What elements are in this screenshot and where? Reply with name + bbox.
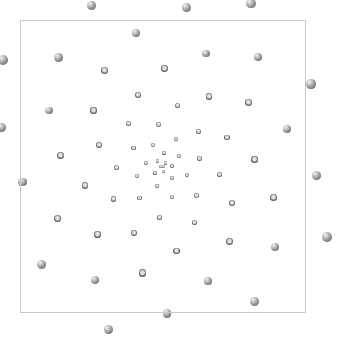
- spiral-sphere: [245, 99, 252, 106]
- spiral-sphere: [182, 3, 191, 12]
- spiral-sphere: [174, 137, 178, 141]
- spiral-sphere: [196, 129, 201, 134]
- spiral-sphere: [251, 156, 258, 163]
- spiral-sphere: [270, 194, 277, 201]
- spiral-sphere: [157, 215, 162, 220]
- spiral-sphere: [104, 325, 113, 334]
- spiral-sphere: [111, 196, 116, 201]
- spiral-sphere: [54, 53, 63, 62]
- spiral-sphere: [91, 276, 99, 284]
- spiral-sphere: [226, 238, 233, 245]
- spiral-sphere: [250, 297, 259, 306]
- spiral-sphere: [114, 165, 119, 170]
- spiral-sphere: [224, 135, 230, 141]
- spiral-sphere: [185, 173, 189, 177]
- spiral-sphere: [197, 156, 202, 161]
- spiral-sphere: [162, 170, 165, 173]
- spiral-sphere: [204, 277, 212, 285]
- spiral-sphere: [37, 260, 46, 269]
- spiral-sphere: [139, 269, 146, 276]
- spiral-sphere: [0, 55, 8, 65]
- spiral-sphere: [153, 171, 157, 175]
- sphere-layer: [0, 0, 340, 337]
- spiral-sphere: [322, 232, 332, 242]
- spiral-sphere: [254, 53, 262, 61]
- spiral-sphere: [162, 151, 166, 155]
- spiral-sphere: [131, 146, 136, 151]
- figure-canvas: [0, 0, 340, 337]
- spiral-sphere: [173, 248, 179, 254]
- spiral-sphere: [194, 193, 199, 198]
- spiral-sphere: [57, 152, 64, 159]
- spiral-sphere: [175, 103, 181, 109]
- spiral-sphere: [283, 125, 291, 133]
- spiral-sphere: [132, 29, 140, 37]
- spiral-sphere: [54, 215, 61, 222]
- spiral-sphere: [177, 154, 181, 158]
- spiral-sphere: [131, 230, 137, 236]
- spiral-sphere: [126, 121, 131, 126]
- spiral-sphere: [90, 107, 97, 114]
- spiral-sphere: [246, 0, 256, 8]
- spiral-sphere: [164, 161, 167, 164]
- spiral-sphere: [45, 107, 53, 115]
- spiral-sphere: [155, 184, 159, 188]
- spiral-sphere: [156, 159, 160, 163]
- spiral-sphere: [162, 165, 165, 168]
- spiral-sphere: [94, 231, 101, 238]
- spiral-sphere: [271, 243, 279, 251]
- spiral-sphere: [156, 122, 161, 127]
- spiral-sphere: [0, 123, 6, 132]
- spiral-sphere: [202, 50, 210, 58]
- spiral-sphere: [192, 220, 198, 226]
- spiral-sphere: [151, 143, 155, 147]
- spiral-sphere: [163, 309, 171, 317]
- spiral-sphere: [161, 65, 168, 72]
- spiral-sphere: [96, 142, 102, 148]
- spiral-sphere: [144, 161, 148, 165]
- spiral-sphere: [229, 200, 235, 206]
- spiral-sphere: [135, 92, 141, 98]
- spiral-sphere: [170, 176, 174, 180]
- spiral-sphere: [306, 79, 315, 88]
- spiral-sphere: [87, 1, 96, 10]
- spiral-sphere: [82, 182, 88, 188]
- spiral-sphere: [312, 171, 321, 180]
- spiral-sphere: [101, 67, 108, 74]
- spiral-sphere: [137, 196, 142, 201]
- spiral-sphere: [18, 178, 26, 186]
- spiral-sphere: [170, 164, 174, 168]
- spiral-sphere: [135, 174, 139, 178]
- spiral-sphere: [206, 93, 212, 99]
- spiral-sphere: [217, 172, 222, 177]
- spiral-sphere: [170, 195, 175, 200]
